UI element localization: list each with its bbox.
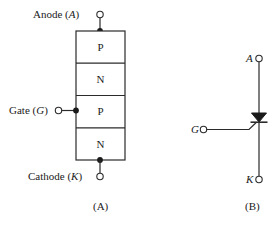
scr-anode-terminal-circle: [256, 55, 262, 61]
gate-label-close: ): [44, 104, 48, 116]
layer-label-p1: P: [76, 42, 125, 53]
anode-label-close: ): [75, 8, 79, 20]
thyristor-figure: Anode (A) Gate (G) Cathode (K) P N P N (…: [0, 0, 277, 229]
anode-terminal-circle: [97, 11, 103, 17]
cathode-label-close: ): [78, 170, 82, 182]
scr-cathode-terminal-circle: [256, 176, 262, 182]
gate-label: Gate (G): [9, 105, 48, 116]
gate-label-text: Gate (: [9, 104, 36, 116]
layer-label-n1: N: [76, 74, 125, 85]
anode-label-text: Anode (: [33, 8, 69, 20]
scr-anode-label: A: [246, 53, 253, 64]
layer-label-p2: P: [76, 106, 125, 117]
panel-b-symbol: [200, 55, 267, 182]
gate-label-symbol: G: [36, 104, 44, 116]
caption-panel-b: (B): [245, 201, 260, 212]
gate-terminal-circle: [55, 107, 61, 113]
cathode-label: Cathode (K): [28, 171, 82, 182]
cathode-label-text: Cathode (: [28, 170, 71, 182]
scr-gate-label: G: [191, 124, 199, 135]
scr-gate-lead-line: [207, 122, 257, 129]
scr-gate-terminal-circle: [200, 126, 206, 132]
scr-cathode-label: K: [246, 174, 253, 185]
anode-label: Anode (A): [33, 9, 79, 20]
scr-triangle: [252, 113, 267, 122]
panel-a-structure: [55, 11, 125, 179]
layer-label-n2: N: [76, 139, 125, 150]
caption-panel-a: (A): [93, 201, 108, 212]
cathode-terminal-circle: [97, 173, 103, 179]
